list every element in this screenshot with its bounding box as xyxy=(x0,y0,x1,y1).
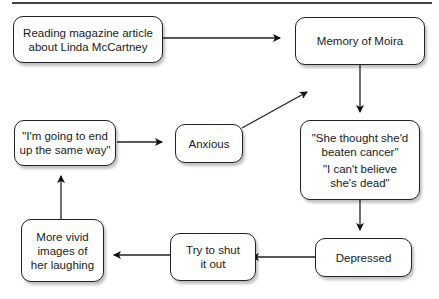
node-try-to-shut-out: Try to shut it out xyxy=(170,233,256,281)
node-text-line: about Linda McCartney xyxy=(29,40,148,54)
node-text-line: it out xyxy=(201,257,226,271)
node-memory-of-moira: Memory of Moira xyxy=(295,17,425,65)
node-text-line: More vivid xyxy=(36,230,88,244)
node-text-line: she's dead" xyxy=(330,176,389,190)
node-more-vivid-images: More vivid images of her laughing xyxy=(21,219,104,282)
node-depressed: Depressed xyxy=(315,238,412,277)
node-reading-article: Reading magazine article about Linda McC… xyxy=(13,16,163,63)
node-text-line: her laughing xyxy=(31,258,94,272)
node-text-line: "She thought she'd xyxy=(312,131,408,145)
node-thoughts: "She thought she'd beaten cancer" "I can… xyxy=(300,120,420,200)
node-text-line: Anxious xyxy=(189,137,230,151)
node-text-line: up the same way" xyxy=(19,143,110,157)
node-text-line: "I can't believe xyxy=(323,162,397,176)
node-text-line: Depressed xyxy=(336,251,392,265)
node-anxious: Anxious xyxy=(175,124,243,163)
node-text-line: Try to shut xyxy=(186,243,240,257)
node-text-line: Memory of Moira xyxy=(317,34,403,48)
node-text-line: Reading magazine article xyxy=(23,26,153,40)
edge-anxious-to-memory xyxy=(242,92,307,128)
node-text-line: beaten cancer" xyxy=(322,145,399,159)
node-text-line: images of xyxy=(38,244,88,258)
node-text-line: "I'm going to end xyxy=(22,129,108,143)
node-end-up-same-way: "I'm going to end up the same way" xyxy=(14,120,116,166)
